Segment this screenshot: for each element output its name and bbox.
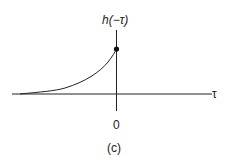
h-curve <box>20 49 117 94</box>
x-axis-label: τ <box>212 88 217 100</box>
y-axis-label: h(−τ) <box>102 14 128 26</box>
origin-tick-label: 0 <box>113 119 120 131</box>
endpoint-dot <box>114 46 119 51</box>
figure-caption: (c) <box>107 142 121 154</box>
